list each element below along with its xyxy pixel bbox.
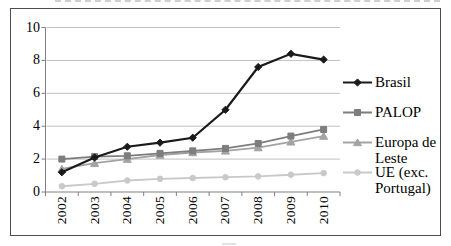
y-tick-label: 0 (14, 185, 40, 199)
marker-square-palop (288, 133, 294, 139)
legend-item-europa-de-leste: Europa de Leste (343, 134, 447, 167)
x-tick-label: 2009 (283, 196, 299, 224)
legend-marker-diamond-icon (343, 77, 372, 88)
marker-square-palop (190, 148, 196, 154)
chart-canvas: 0246810 20022003200420052006200720082009… (0, 0, 451, 246)
x-tick-label: 2005 (152, 196, 168, 224)
marker-diamond-brasil (320, 56, 327, 63)
marker-diamond-brasil (156, 139, 163, 146)
legend-label: UE (exc. Portugal) (375, 164, 447, 197)
x-tick-label: 2008 (250, 196, 266, 224)
legend-label: PALOP (375, 104, 447, 121)
x-tick-label: 2007 (217, 196, 233, 224)
marker-square-palop (255, 140, 261, 146)
marker-diamond-brasil (124, 143, 131, 150)
x-tick-label: 2002 (54, 196, 70, 224)
y-tick-label: 6 (14, 86, 40, 100)
legend-item-ue-exc-portugal: UE (exc. Portugal) (343, 164, 447, 197)
marker-circle-ue-exc-portugal (92, 181, 98, 187)
legend-marker-square-icon (343, 107, 372, 118)
marker-diamond-brasil (287, 50, 294, 57)
marker-circle-ue-exc-portugal (223, 174, 229, 180)
y-tick-label: 2 (14, 152, 40, 166)
marker-circle-ue-exc-portugal (59, 183, 65, 189)
legend-label: Brasil (375, 74, 447, 91)
marker-square-palop (124, 153, 130, 159)
marker-square-palop (222, 145, 228, 151)
marker-circle-ue-exc-portugal (125, 178, 131, 184)
marker-circle-ue-exc-portugal (157, 176, 163, 182)
x-tick-label: 2004 (119, 196, 135, 224)
marker-square-palop (321, 126, 327, 132)
marker-circle-ue-exc-portugal (321, 170, 327, 176)
x-tick-label: 2006 (185, 196, 201, 224)
marker-circle-ue-exc-portugal (255, 174, 261, 180)
y-tick-label: 10 (14, 21, 40, 35)
x-tick-label: 2003 (87, 196, 103, 224)
marker-square-palop (59, 156, 65, 162)
legend-item-palop: PALOP (343, 104, 447, 121)
marker-circle-ue-exc-portugal (288, 172, 294, 178)
legend-label: Europa de Leste (375, 134, 447, 167)
marker-square-palop (157, 150, 163, 156)
crop-artifact-bottom (222, 243, 236, 245)
legend-item-brasil: Brasil (343, 74, 447, 91)
marker-circle-ue-exc-portugal (190, 175, 196, 181)
y-tick-label: 4 (14, 119, 40, 133)
x-tick-label: 2010 (316, 196, 332, 224)
legend-marker-circle-icon (343, 167, 372, 178)
legend-marker-triangle-icon (343, 137, 372, 148)
y-tick-label: 8 (14, 53, 40, 67)
